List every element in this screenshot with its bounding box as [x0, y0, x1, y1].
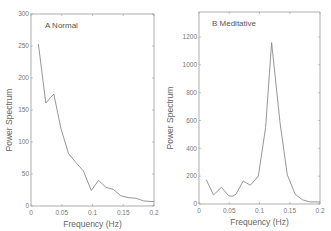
x-tick-label: 0.15 — [283, 207, 296, 214]
y-tick-label: 800 — [186, 89, 197, 96]
panel-title: A Normal — [45, 21, 78, 30]
panel-a-normal: 00.050.10.150.2050100150200250300A Norma… — [4, 10, 159, 229]
y-tick-label: 200 — [186, 172, 197, 179]
x-tick-label: 0 — [29, 209, 33, 216]
y-tick-label: 1000 — [183, 61, 198, 68]
y-axis-label: Power Spectrum — [4, 89, 14, 152]
x-axis-label: Frequency (Hz) — [63, 219, 122, 229]
y-tick-label: 50 — [22, 170, 30, 177]
y-tick-label: 150 — [18, 106, 29, 113]
x-axis-label: Frequency (Hz) — [230, 217, 289, 227]
x-tick-label: 0 — [197, 207, 201, 214]
x-tick-label: 0.1 — [255, 207, 264, 214]
y-tick-label: 400 — [186, 145, 197, 152]
x-tick-label: 0.1 — [88, 209, 97, 216]
plot-frame — [31, 14, 154, 206]
y-tick-label: 0 — [193, 200, 197, 207]
y-tick-label: 100 — [18, 138, 29, 145]
chart: 00.050.10.150.2050100150200250300A Norma… — [0, 0, 331, 231]
panel-title: B Meditative — [212, 19, 257, 28]
y-tick-label: 250 — [18, 42, 29, 49]
plot-frame — [199, 12, 320, 204]
series-line-normal — [38, 44, 154, 201]
x-tick-label: 0.2 — [315, 207, 324, 214]
y-tick-label: 600 — [186, 117, 197, 124]
y-axis-label: Power Spectrum — [165, 87, 175, 150]
x-tick-label: 0.2 — [149, 209, 158, 216]
series-line-meditative — [206, 43, 320, 202]
y-tick-label: 200 — [18, 74, 29, 81]
x-tick-label: 0.05 — [55, 209, 68, 216]
x-tick-label: 0.15 — [117, 209, 130, 216]
y-tick-label: 1200 — [183, 33, 198, 40]
y-tick-label: 0 — [25, 202, 29, 209]
panel-b-meditative: 00.050.10.150.2020040060080010001200B Me… — [165, 12, 325, 227]
x-tick-label: 0.05 — [223, 207, 236, 214]
y-tick-label: 300 — [18, 10, 29, 17]
